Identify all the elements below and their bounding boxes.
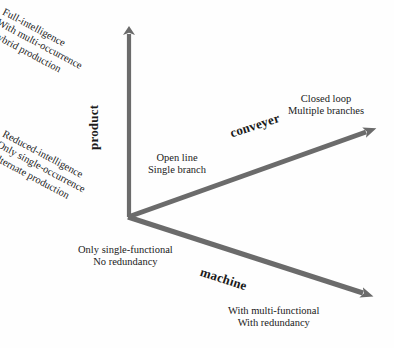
conveyer-high-line-2: Multiple branches xyxy=(288,105,364,117)
conveyer-low-end-description: Open line Single branch xyxy=(148,152,206,177)
machine-low-end-description: Only single-functional No redundancy xyxy=(78,244,173,269)
machine-high-line-2: With redundancy xyxy=(228,317,319,329)
machine-high-line-1: With multi-functional xyxy=(228,305,319,317)
machine-high-end-description: With multi-functional With redundancy xyxy=(228,305,319,330)
conveyer-low-line-2: Single branch xyxy=(148,164,206,176)
conveyer-high-end-description: Closed loop Multiple branches xyxy=(288,93,364,118)
machine-low-line-1: Only single-functional xyxy=(78,244,173,256)
conveyer-high-line-1: Closed loop xyxy=(288,93,364,105)
conveyer-low-line-1: Open line xyxy=(148,152,206,164)
machine-low-line-2: No redundancy xyxy=(78,256,173,268)
axis-label-product: product xyxy=(86,105,101,150)
diagram-canvas: product Full-intelligence With multi-occ… xyxy=(0,0,394,348)
